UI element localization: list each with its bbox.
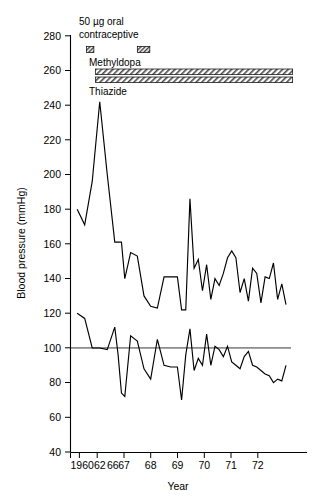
y-tick-label-180: 180 xyxy=(43,203,61,215)
x-tick-label-62: 62 xyxy=(94,459,106,471)
x-tick-label-72: 72 xyxy=(252,459,264,471)
y-tick-label-280: 280 xyxy=(43,30,61,42)
y-tick-label-60: 60 xyxy=(49,411,61,423)
oral-contraceptive-label-line1: 50 µg oral xyxy=(79,16,124,27)
x-tick-label-1960: 1960 xyxy=(71,459,95,471)
y-tick-label-40: 40 xyxy=(49,446,61,458)
y-tick-label-220: 220 xyxy=(43,134,61,146)
x-tick-label-69: 69 xyxy=(172,459,184,471)
y-tick-label-80: 80 xyxy=(49,376,61,388)
x-tick-label-67: 67 xyxy=(118,459,130,471)
y-tick-label-200: 200 xyxy=(43,168,61,180)
thiazide-treatment-bar xyxy=(96,77,293,83)
chart-canvas: 40 60 80 100 120 140 160 180 200 220 240… xyxy=(0,0,315,499)
oral-contraceptive-label-line2: contraceptive xyxy=(79,29,139,40)
y-tick-label-140: 140 xyxy=(43,272,61,284)
y-tick-label-160: 160 xyxy=(43,238,61,250)
methyldopa-label: Methyldopa xyxy=(89,57,141,68)
x-axis-title: Year xyxy=(167,480,189,492)
oral-contraceptive-period-1-bar xyxy=(86,47,94,53)
y-tick-label-120: 120 xyxy=(43,307,61,319)
x-tick-label-70: 70 xyxy=(198,459,210,471)
thiazide-label: Thiazide xyxy=(89,86,127,97)
blood-pressure-chart-figure: 40 60 80 100 120 140 160 180 200 220 240… xyxy=(0,0,315,499)
x-tick-label-71: 71 xyxy=(225,459,237,471)
x-tick-label-68: 68 xyxy=(145,459,157,471)
x-tick-label-66: 66 xyxy=(107,459,119,471)
y-tick-label-260: 260 xyxy=(43,64,61,76)
y-axis-title: Blood pressure (mmHg) xyxy=(15,187,27,298)
methyldopa-treatment-bar xyxy=(96,69,293,75)
y-tick-label-240: 240 xyxy=(43,99,61,111)
oral-contraceptive-period-2-bar xyxy=(137,47,150,53)
y-tick-label-100: 100 xyxy=(43,342,61,354)
